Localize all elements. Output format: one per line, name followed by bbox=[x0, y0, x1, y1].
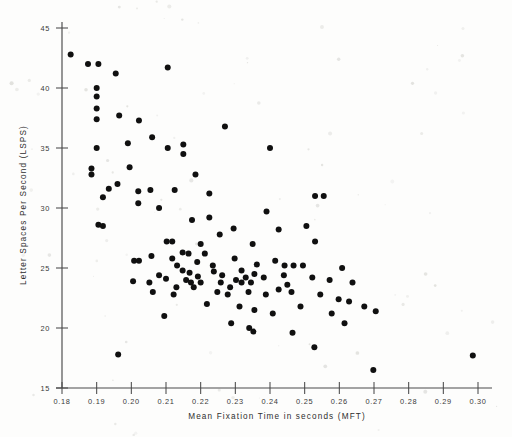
paper-speck bbox=[434, 91, 437, 94]
data-point bbox=[251, 307, 257, 313]
x-tick-label: 0.21 bbox=[157, 397, 174, 406]
data-point bbox=[206, 215, 212, 221]
paper-noise bbox=[10, 1, 498, 437]
data-point bbox=[125, 140, 131, 146]
data-point bbox=[282, 263, 288, 269]
data-point bbox=[217, 231, 223, 237]
data-point bbox=[68, 51, 74, 57]
paper-speck bbox=[402, 303, 405, 306]
data-point bbox=[180, 151, 186, 157]
data-point bbox=[204, 301, 210, 307]
data-point bbox=[202, 251, 208, 257]
data-point bbox=[284, 282, 290, 288]
y-tick-label: 15 bbox=[40, 384, 50, 393]
paper-speck bbox=[156, 114, 158, 116]
paper-speck bbox=[179, 208, 182, 211]
data-point bbox=[272, 258, 278, 264]
x-tick-label: 0.20 bbox=[123, 397, 140, 406]
paper-speck bbox=[314, 219, 316, 221]
data-point bbox=[156, 205, 162, 211]
y-tick-label: 20 bbox=[40, 324, 50, 333]
data-point bbox=[186, 251, 192, 257]
data-point bbox=[165, 145, 171, 151]
data-point bbox=[100, 194, 106, 200]
paper-speck bbox=[132, 434, 134, 436]
data-point bbox=[281, 272, 287, 278]
x-tick-label: 0.23 bbox=[227, 397, 244, 406]
y-tick-label: 45 bbox=[40, 24, 50, 33]
x-tick-label: 0.19 bbox=[88, 397, 105, 406]
paper-speck bbox=[458, 59, 461, 62]
data-point bbox=[106, 186, 112, 192]
paper-speck bbox=[320, 25, 324, 29]
data-point bbox=[370, 367, 376, 373]
paper-speck bbox=[29, 188, 33, 192]
data-point bbox=[136, 117, 142, 123]
paper-speck bbox=[112, 380, 113, 381]
paper-speck bbox=[93, 276, 94, 277]
data-point bbox=[149, 134, 155, 140]
data-point bbox=[156, 272, 162, 278]
plot-canvas: 15202530354045 0.180.190.200.210.220.230… bbox=[0, 0, 512, 437]
x-tick-label: 0.28 bbox=[400, 397, 417, 406]
data-point bbox=[88, 171, 94, 177]
paper-speck bbox=[112, 171, 114, 173]
paper-speck bbox=[309, 343, 311, 345]
data-point bbox=[135, 188, 141, 194]
scatter-plot-figure: 15202530354045 0.180.190.200.210.220.230… bbox=[0, 0, 512, 437]
paper-speck bbox=[72, 173, 75, 176]
paper-speck bbox=[136, 8, 138, 10]
data-point bbox=[88, 165, 94, 171]
x-tick-label: 0.18 bbox=[53, 397, 70, 406]
paper-speck bbox=[390, 180, 394, 184]
paper-speck bbox=[461, 310, 463, 312]
data-point bbox=[261, 275, 267, 281]
paper-speck bbox=[394, 294, 396, 296]
data-point bbox=[309, 275, 315, 281]
paper-speck bbox=[307, 148, 309, 150]
paper-speck bbox=[48, 253, 52, 257]
paper-speck bbox=[259, 397, 260, 398]
paper-speck bbox=[202, 92, 205, 95]
data-point bbox=[210, 263, 216, 269]
data-point bbox=[161, 313, 167, 319]
paper-speck bbox=[257, 101, 261, 105]
data-point bbox=[180, 141, 186, 147]
paper-speck bbox=[218, 388, 221, 391]
y-axis-title: Letter Spaces Per Second (LSPS) bbox=[19, 125, 28, 285]
y-tick-label: 40 bbox=[40, 84, 50, 93]
data-point bbox=[248, 279, 254, 285]
data-point bbox=[317, 291, 323, 297]
y-tick-label: 30 bbox=[40, 204, 50, 213]
paper-speck bbox=[247, 62, 248, 63]
data-point bbox=[228, 320, 234, 326]
data-point bbox=[198, 241, 204, 247]
data-point bbox=[250, 241, 256, 247]
paper-speck bbox=[234, 83, 235, 84]
data-point bbox=[232, 255, 238, 261]
paper-speck bbox=[126, 105, 128, 107]
data-point bbox=[211, 269, 217, 275]
paper-speck bbox=[32, 394, 35, 397]
data-point bbox=[195, 273, 201, 279]
paper-speck bbox=[328, 131, 332, 135]
data-point bbox=[290, 330, 296, 336]
data-point bbox=[85, 61, 91, 67]
paper-speck bbox=[246, 57, 249, 60]
data-point bbox=[206, 191, 212, 197]
x-tick-label: 0.30 bbox=[469, 397, 486, 406]
data-point bbox=[329, 311, 335, 317]
data-point bbox=[180, 267, 186, 273]
data-point bbox=[233, 277, 239, 283]
paper-speck bbox=[445, 331, 449, 335]
data-point bbox=[136, 258, 142, 264]
data-point bbox=[300, 263, 306, 269]
paper-speck bbox=[15, 88, 19, 92]
data-point bbox=[164, 239, 170, 245]
x-tick-label: 0.25 bbox=[296, 397, 313, 406]
axes bbox=[56, 22, 492, 388]
data-point bbox=[312, 193, 318, 199]
data-point bbox=[298, 303, 304, 309]
data-point bbox=[227, 284, 233, 290]
paper-speck bbox=[198, 22, 200, 24]
